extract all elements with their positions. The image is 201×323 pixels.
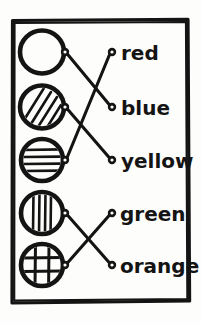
- right-endpoint-dots: [109, 49, 115, 268]
- endpoint-dot-word-red[interactable]: [109, 49, 115, 55]
- left-endpoint-dots: [62, 49, 68, 268]
- endpoint-dot-circle-empty[interactable]: [62, 49, 68, 55]
- label-green[interactable]: green: [120, 202, 186, 226]
- vertical-stripe-fill: [33, 192, 51, 234]
- shape-circle-vertical-stripes[interactable]: [21, 192, 63, 234]
- label-red[interactable]: red: [121, 41, 159, 65]
- connector-horizontal-to-red[interactable]: [67, 54, 111, 160]
- puzzle-canvas: red blue yellow green orange: [0, 0, 201, 323]
- label-blue[interactable]: blue: [121, 96, 170, 120]
- endpoint-dot-circle-diagonal[interactable]: [62, 104, 68, 110]
- endpoint-dot-word-yellow[interactable]: [109, 157, 115, 163]
- label-yellow[interactable]: yellow: [121, 149, 194, 173]
- connector-empty-to-blue[interactable]: [67, 53, 111, 106]
- connector-lines: [67, 53, 111, 264]
- shape-circle-empty[interactable]: [20, 31, 64, 74]
- endpoint-dot-circle-vertical[interactable]: [62, 210, 68, 216]
- endpoint-dot-circle-grid[interactable]: [62, 262, 68, 268]
- horizontal-stripe-fill: [21, 149, 63, 171]
- endpoint-dot-circle-horizontal[interactable]: [62, 157, 68, 163]
- shape-circle-horizontal-stripes[interactable]: [21, 139, 63, 181]
- endpoint-dot-word-orange[interactable]: [109, 262, 115, 268]
- connector-diagonal-to-yellow[interactable]: [67, 108, 111, 159]
- matching-puzzle-worksheet: red blue yellow green orange: [0, 0, 201, 323]
- shape-circle-grid[interactable]: [21, 244, 63, 286]
- endpoint-dot-word-green[interactable]: [109, 210, 115, 216]
- endpoint-dot-word-blue[interactable]: [109, 104, 115, 110]
- label-orange[interactable]: orange: [120, 254, 199, 278]
- shape-circle-diagonal-stripes[interactable]: [20, 86, 64, 130]
